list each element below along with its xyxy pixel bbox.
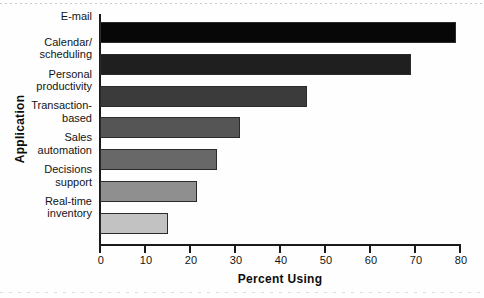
bar [100,213,168,234]
x-axis-tick [234,246,236,253]
x-axis-tick-label: 70 [396,254,436,266]
x-axis-tick [414,246,416,253]
category-label: Real-timeinventory [0,195,92,220]
x-axis-tick-label: 40 [261,254,301,266]
category-label: Calendar/scheduling [0,36,92,61]
scan-artifact-bottom [0,292,484,293]
category-label-line: E-mail [0,10,92,23]
category-label-line: inventory [0,207,92,220]
x-axis-tick-label: 80 [441,254,481,266]
x-axis-tick [459,246,461,253]
x-axis-tick [144,246,146,253]
chart-screenshot: 01020304050607080 E-mailCalendar/schedul… [0,0,484,298]
category-label-line: support [0,176,92,189]
x-axis-tick-label: 10 [126,254,166,266]
x-axis-tick [99,246,101,253]
x-axis-tick [189,246,191,253]
x-axis-tick-label: 0 [81,254,121,266]
x-axis-tick [324,246,326,253]
category-label: E-mail [0,10,92,23]
x-axis-tick [369,246,371,253]
x-axis-tick [279,246,281,253]
x-axis-tick-label: 30 [216,254,256,266]
category-label-line: Calendar/ [0,36,92,49]
bar [100,117,240,138]
category-label-line: Personal [0,68,92,81]
y-axis-title: Application [13,81,27,177]
category-label-line: Real-time [0,195,92,208]
bar [100,22,456,43]
x-axis-tick-label: 50 [306,254,346,266]
scan-artifact-top [0,3,484,4]
bar [100,181,197,202]
x-axis-title: Percent Using [100,272,460,286]
x-axis-tick-label: 20 [171,254,211,266]
plot-area [100,16,460,244]
bar [100,54,411,75]
category-label-line: scheduling [0,48,92,61]
bar [100,86,307,107]
x-axis-tick-label: 60 [351,254,391,266]
bar [100,149,217,170]
